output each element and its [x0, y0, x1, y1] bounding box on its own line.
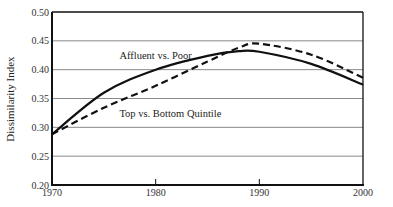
y-tick-label: 0.50: [32, 7, 50, 18]
y-tick-label: 0.35: [32, 93, 50, 104]
y-tick-label: 0.30: [32, 122, 50, 133]
line-chart: 0.200.250.300.350.400.450.50 19701980199…: [0, 0, 393, 207]
series-annotations: Affluent vs. PoorTop vs. Bottom Quintile: [119, 50, 221, 119]
y-tick-label: 0.40: [32, 64, 50, 75]
x-tick-label: 1990: [249, 187, 269, 198]
label-top-vs-bottom-quintile: Top vs. Bottom Quintile: [119, 108, 221, 119]
y-axis-title: Dissimilarity Index: [4, 56, 16, 142]
x-tick-label: 2000: [353, 187, 373, 198]
y-tick-label: 0.45: [32, 35, 50, 46]
x-tick-label: 1970: [42, 187, 62, 198]
y-axis-ticks: 0.200.250.300.350.400.450.50: [32, 7, 50, 191]
x-tick-label: 1980: [146, 187, 166, 198]
x-axis-ticks: 1970198019902000: [42, 179, 373, 198]
y-tick-label: 0.25: [32, 151, 50, 162]
gridlines: [52, 41, 363, 156]
series-line-affluent-vs-poor: [52, 50, 363, 134]
series-lines: [52, 43, 363, 134]
series-line-top-vs-bottom-quintile: [52, 43, 363, 134]
label-affluent-vs-poor: Affluent vs. Poor: [119, 50, 192, 61]
